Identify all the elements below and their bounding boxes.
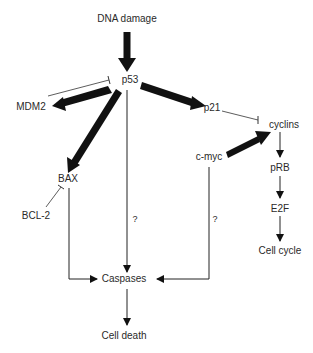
edge-cmyc-to-cyclins bbox=[226, 131, 271, 158]
node-cyclins: cyclins bbox=[269, 119, 299, 131]
node-bax: BAX bbox=[58, 173, 78, 185]
unknown-label-cmyc-caspases: ? bbox=[212, 213, 217, 225]
edge-dna-to-p53 bbox=[118, 32, 136, 72]
node-p53: p53 bbox=[122, 74, 139, 86]
node-p21: p21 bbox=[204, 102, 221, 114]
edge-cmyc-to-caspases bbox=[157, 167, 209, 279]
node-cell-death: Cell death bbox=[101, 330, 146, 342]
node-e2f: E2F bbox=[271, 203, 289, 215]
node-dna-damage: DNA damage bbox=[97, 13, 156, 25]
diagram-edges bbox=[0, 0, 313, 353]
node-c-myc: c-myc bbox=[196, 151, 223, 163]
node-prb: pRB bbox=[270, 162, 289, 174]
edge-p21-inhibits-cyclins bbox=[222, 111, 258, 124]
node-mdm2: MDM2 bbox=[16, 101, 45, 113]
node-caspases: Caspases bbox=[102, 273, 146, 285]
edge-p53-to-p21 bbox=[140, 82, 206, 110]
edge-bcl2-inhibits-bax bbox=[46, 185, 64, 207]
unknown-label-p53-caspases: ? bbox=[132, 213, 137, 225]
edge-p53-to-mdm2 bbox=[52, 86, 112, 111]
edge-bax-to-caspases bbox=[69, 188, 97, 279]
p53-pathway-diagram: DNA damage p53 MDM2 p21 cyclins c-myc BA… bbox=[0, 0, 313, 353]
node-bcl-2: BCL-2 bbox=[22, 210, 50, 222]
node-cell-cycle: Cell cycle bbox=[259, 245, 302, 257]
